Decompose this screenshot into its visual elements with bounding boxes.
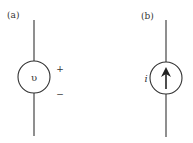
panel-a-voltage-source: (a) υ + − — [7, 10, 64, 136]
circuit-diagram: (a) υ + − (b) i — [0, 0, 193, 143]
voltage-symbol: υ — [31, 72, 37, 83]
panel-b-label: (b) — [141, 11, 154, 21]
minus-sign: − — [56, 89, 64, 99]
plus-sign: + — [56, 64, 64, 74]
panel-a-label: (a) — [7, 10, 19, 20]
panel-b-current-source: (b) i — [141, 11, 182, 137]
current-symbol: i — [144, 73, 147, 84]
arrow-up-icon — [161, 67, 171, 89]
